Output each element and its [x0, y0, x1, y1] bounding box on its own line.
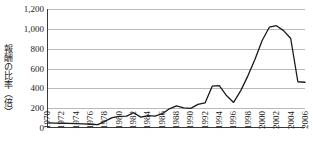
x-axis-tick-label: 1978 [100, 111, 109, 129]
x-axis-tick-label: 2000 [258, 111, 267, 129]
y-axis-tick-label: 600 [12, 64, 44, 73]
x-axis-tick-label: 2006 [301, 111, 310, 129]
y-axis-tick-label: 800 [12, 44, 44, 53]
chart-container: 報酬の比率（倍） 02004006008001,0001,200 1970197… [0, 0, 313, 159]
x-axis-tick-label: 1998 [243, 111, 252, 129]
x-axis-tick-label: 1974 [71, 111, 80, 129]
y-axis-tick-label: 400 [12, 84, 44, 93]
y-axis-tick-label: 1,200 [12, 5, 44, 14]
x-axis-tick-label: 2004 [286, 111, 295, 129]
x-axis-tick-label: 1992 [200, 111, 209, 129]
x-axis-tick-label: 1990 [186, 111, 195, 129]
x-axis-tick-label: 1988 [172, 111, 181, 129]
x-axis-tick-label: 1996 [229, 111, 238, 129]
y-axis-tick-label: 200 [12, 104, 44, 113]
y-axis-tick-label: 0 [12, 124, 44, 133]
x-axis-tick-label: 2002 [272, 111, 281, 129]
x-axis-tick-labels: 1970197219741976197819801982198419861988… [47, 129, 305, 159]
x-axis-tick-label: 1980 [114, 111, 123, 129]
x-axis-tick-label: 1976 [86, 111, 95, 129]
x-axis-tick-label: 1986 [157, 111, 166, 129]
x-axis-tick-label: 1994 [215, 111, 224, 129]
x-axis-tick-label: 1984 [143, 111, 152, 129]
x-axis-tick-label: 1970 [43, 111, 52, 129]
data-series-line [48, 9, 305, 127]
x-axis-tick-label: 1972 [57, 111, 66, 129]
y-axis-tick-label: 1,000 [12, 24, 44, 33]
x-axis-tick-label: 1982 [129, 111, 138, 129]
